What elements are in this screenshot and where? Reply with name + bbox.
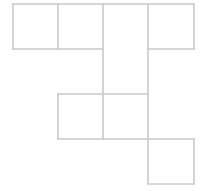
cell-r1c1 <box>13 4 58 49</box>
cell-r2c3 <box>103 49 148 94</box>
cell-r1c4 <box>148 4 194 49</box>
cell-r1c3 <box>103 4 148 49</box>
cell-r3c2 <box>58 94 103 139</box>
cell-r4c4 <box>148 139 194 184</box>
cell-r3c3 <box>103 94 148 139</box>
net-diagram-canvas <box>0 0 204 191</box>
cell-r1c2 <box>58 4 103 49</box>
square-net-figure <box>0 0 204 191</box>
